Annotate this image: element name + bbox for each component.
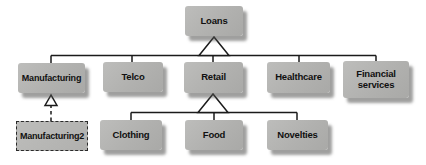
hierarchy-diagram: Loans Manufacturing Telco Retail Healthc… (0, 0, 426, 165)
node-retail: Retail (184, 62, 243, 93)
node-clothing-label: Clothing (113, 130, 150, 141)
node-food-label: Food (203, 130, 225, 141)
node-telco-label: Telco (121, 72, 144, 83)
node-manufacturing2: Manufacturing2 (16, 121, 88, 151)
node-manufacturing: Manufacturing (18, 63, 85, 93)
loans-generalization-triangle-icon (199, 37, 229, 56)
node-manufacturing2-label: Manufacturing2 (20, 131, 84, 141)
node-financial-services: Financial services (343, 61, 409, 98)
node-healthcare-label: Healthcare (275, 72, 322, 83)
node-novelties: Novelties (267, 120, 328, 150)
node-financial-services-label: Financial services (347, 69, 405, 90)
node-clothing: Clothing (100, 120, 162, 150)
retail-generalization-triangle-icon (198, 94, 228, 113)
node-telco: Telco (103, 62, 163, 92)
retail-children-rail (131, 113, 297, 121)
node-loans: Loans (185, 6, 243, 36)
manufacturing2-arrowhead-icon (45, 95, 57, 106)
node-loans-label: Loans (201, 16, 228, 27)
node-food: Food (185, 120, 243, 150)
node-retail-label: Retail (201, 72, 226, 83)
node-healthcare: Healthcare (267, 62, 330, 93)
node-novelties-label: Novelties (277, 130, 317, 141)
node-manufacturing-label: Manufacturing (22, 73, 81, 83)
